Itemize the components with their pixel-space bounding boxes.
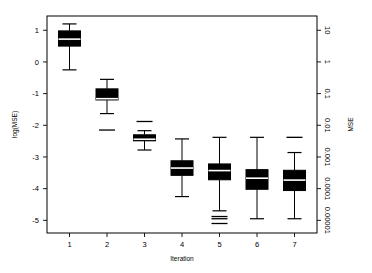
x-tick-label: 3 [142,240,146,249]
x-tick-label: 2 [105,240,109,249]
y-tick-label-left: -1 [32,89,39,98]
x-tick-label: 5 [217,240,221,249]
x-axis-title: Iteration [170,255,194,262]
boxplot-figure: 10-1-2-3-4-5log(MSE)1010.10.010.0010.000… [0,0,372,273]
x-tick-label: 7 [292,240,296,249]
boxplot-box [246,137,268,218]
boxplot-box [284,137,306,218]
box-iqr [209,164,231,180]
box-iqr [246,170,268,190]
x-tick-label: 6 [255,240,259,249]
y-tick-label-right: 0.1 [323,88,332,98]
boxplot-box [134,121,156,150]
plot-frame [47,16,317,233]
chart-canvas: 10-1-2-3-4-5log(MSE)1010.10.010.0010.000… [0,0,372,273]
y-axis-title-right: MSE [347,117,354,132]
y-tick-label-left: 1 [35,26,39,35]
y-tick-label-left: 0 [35,58,39,67]
x-tick-label: 4 [180,240,184,249]
x-tick-label: 1 [67,240,71,249]
y-tick-label-right: 1 [323,60,332,64]
y-tick-label-left: -4 [32,184,39,193]
boxplot-box [171,139,193,197]
y-tick-label-left: -2 [32,121,39,130]
y-tick-label-right: 0.0001 [323,177,332,200]
boxplot-box [96,79,118,130]
y-axis-title-left: log(MSE) [11,111,19,138]
y-tick-label-right: 0.001 [323,148,332,167]
y-tick-label-right: 10 [323,26,332,34]
boxplot-box [59,24,81,70]
y-tick-label-right: 0.00001 [323,207,332,234]
y-tick-label-right: 0.01 [323,118,332,133]
y-tick-label-left: -5 [32,216,39,225]
y-tick-label-left: -3 [32,153,39,162]
boxplot-box [209,137,231,223]
